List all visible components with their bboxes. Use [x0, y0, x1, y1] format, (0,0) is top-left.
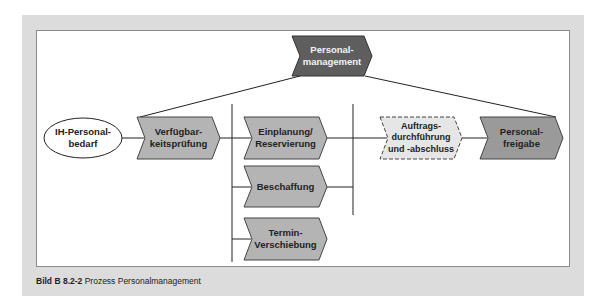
figure-number: Bild B 8.2-2 — [36, 276, 82, 286]
figure-caption: Bild B 8.2-2 Prozess Personalmanagement — [36, 276, 201, 286]
node-shape — [480, 117, 563, 159]
node-shape — [380, 117, 462, 159]
connector-line — [140, 76, 300, 117]
node-shape — [244, 117, 327, 159]
caption-text: Prozess Personalmanagement — [82, 276, 201, 286]
node-shape — [244, 166, 327, 207]
top-node-shape — [292, 36, 372, 76]
node-shape — [244, 218, 327, 260]
node-shape — [137, 117, 220, 159]
process-diagram — [0, 0, 605, 308]
connector-line — [365, 76, 556, 117]
start-event-shape — [44, 118, 122, 158]
